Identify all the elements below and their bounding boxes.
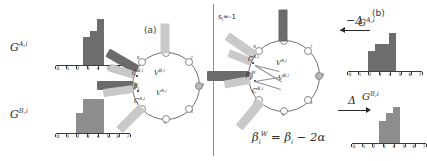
label-V-Ai: VA,i [156, 88, 167, 97]
ring-node-number: 2 [190, 55, 193, 60]
ring-node-number: 8 [137, 55, 140, 60]
hist-tick-label: 0 [55, 66, 61, 74]
hist-bar [375, 44, 382, 71]
formula-lhs-sub: i [259, 138, 261, 146]
hist-tick-label: 5 [397, 72, 403, 80]
hist-bar [83, 37, 90, 65]
hist-bar [379, 121, 386, 143]
label-V-Ai: VA,i [276, 58, 287, 67]
label-beta-W: βiW [246, 70, 256, 81]
figure-canvas: (a) GA,i 01234567 GB,i 01234567 12345678… [0, 0, 427, 161]
hist-b-top-ticklabels: 01234567 [347, 72, 423, 80]
label-V-Bi-sup: B,i [283, 73, 289, 78]
hist-b-bottom-bars [358, 97, 414, 143]
hist-a-bottom-label: GB,i [10, 107, 28, 121]
ring-node-number: 5 [164, 120, 167, 125]
hist-bar [90, 99, 97, 133]
hist-a-bottom-label-base: G [10, 108, 19, 121]
ring-spoke [161, 23, 170, 53]
ring-node-number: 4 [190, 109, 193, 114]
label-V-Bi-sup: B,i [159, 68, 165, 73]
hist-b-top-bars [354, 25, 410, 71]
hist-bar [386, 113, 393, 143]
label-V-Ai-sup: A,i [281, 58, 287, 63]
hist-tick-label: 1 [65, 134, 71, 142]
hist-tick-label: 2 [371, 144, 377, 152]
arrow-plus-delta-label: Δ [348, 94, 356, 107]
hist-tick-label: 1 [65, 66, 71, 74]
hist-tick-label: 3 [85, 134, 91, 142]
beta-formula: βiW = βi − 2α [252, 130, 325, 146]
label-C-Bi-sup: B,i [257, 86, 263, 91]
ring-node-number: 2 [310, 44, 313, 49]
hist-a-top-label-sup: A,i [19, 40, 28, 48]
label-C-Bi-sup: B,i [137, 68, 143, 73]
formula-rhs-sub: i [291, 138, 293, 146]
hist-a-top-label-base: G [10, 41, 19, 54]
hist-bar [389, 33, 396, 71]
hist-tick-label: 0 [55, 134, 61, 142]
hist-a-bottom-label-sup: B,i [19, 107, 28, 115]
ring-diagram-b: 12345678CA,iVA,iβiWVB,iCB,i [218, 18, 338, 142]
hist-bar [368, 51, 375, 71]
hist-tick-label: 6 [407, 72, 413, 80]
formula-rhs-term: 2α [310, 130, 325, 144]
formula-lhs-sup: W [261, 130, 268, 138]
label-C-Ai: CA,i [134, 96, 145, 105]
hist-bar [90, 31, 97, 65]
label-V-Bi: VB,i [154, 68, 165, 77]
hist-tick-label: 4 [95, 134, 101, 142]
label-C-Ai-sup: A,i [253, 54, 259, 59]
ring-node-number: 5 [282, 112, 285, 117]
panel-a: (a) GA,i 01234567 GB,i 01234567 12345678… [0, 0, 214, 161]
hist-bar [393, 107, 400, 143]
hist-tick-label: 3 [377, 72, 383, 80]
ring-node-number: 3 [202, 82, 205, 87]
ring-node-number: 8 [253, 44, 256, 49]
formula-equals: = [271, 130, 281, 144]
ring-spoke [279, 9, 288, 41]
hist-tick-label: 4 [391, 144, 397, 152]
hist-tick-label: 7 [421, 144, 427, 152]
formula-minus: − [297, 130, 307, 144]
label-V-Ai-sup: A,i [161, 88, 167, 93]
ring-node-number: 3 [322, 72, 325, 77]
label-C-Bi: CB,i [252, 86, 263, 95]
hist-tick-label: 4 [387, 72, 393, 80]
hist-b-top: 01234567 [354, 20, 424, 80]
ring-spoke [117, 104, 146, 133]
hist-bar [97, 19, 104, 65]
hist-b-bottom: 01234567 [358, 94, 427, 152]
arrow-minus-delta-head [340, 27, 345, 33]
formula-lhs-base: β [252, 130, 259, 144]
hist-tick-label: 2 [75, 134, 81, 142]
ring-spoke [236, 98, 265, 130]
panel-b: (b) si=-1 12345678CA,iVA,iβiWVB,iCB,i βi… [214, 0, 427, 161]
ring-diagram-a: 12345678CB,iVB,iβiVA,iCA,i [110, 30, 214, 142]
label-C-Ai-sup: A,i [139, 96, 145, 101]
hist-tick-label: 7 [417, 72, 423, 80]
hist-tick-label: 0 [351, 144, 357, 152]
hist-a-top-label: GA,i [10, 40, 28, 54]
ring-node-number: 4 [310, 100, 313, 105]
hist-tick-label: 5 [401, 144, 407, 152]
hist-tick-label: 2 [75, 66, 81, 74]
hist-bar [97, 99, 104, 133]
hist-tick-label: 6 [411, 144, 417, 152]
hist-tick-label: 0 [347, 72, 353, 80]
hist-tick-label: 2 [367, 72, 373, 80]
hist-tick-label: 1 [361, 144, 367, 152]
hist-b-bottom-ticklabels: 01234567 [351, 144, 427, 152]
label-beta-W-sub: i [250, 76, 251, 81]
hist-tick-label: 1 [357, 72, 363, 80]
hist-bar [76, 113, 83, 133]
hist-tick-label: 3 [85, 66, 91, 74]
hist-bar [83, 99, 90, 133]
hist-tick-label: 3 [381, 144, 387, 152]
hist-bar [382, 44, 389, 71]
hist-tick-label: 4 [95, 66, 101, 74]
label-beta-W-sup: W [251, 70, 256, 75]
